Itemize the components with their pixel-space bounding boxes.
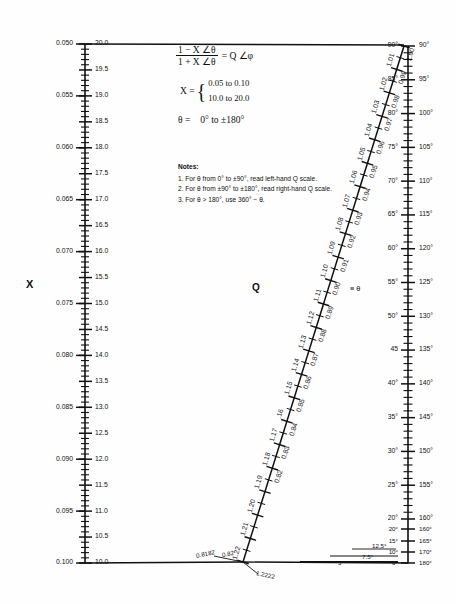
- x-scale-inner-label: 19.0: [95, 92, 108, 99]
- formula-block: 1 − X ∠θ 1 + X ∠θ = Q ∠φ X = { 0.05 to 0…: [176, 44, 366, 125]
- x-scale-outer-label: 0.055: [56, 92, 73, 99]
- theta-scale-left-label: 45: [390, 346, 398, 353]
- x-scale-inner-label: 19.5: [95, 66, 108, 73]
- theta-scale-right-label: 90°: [419, 42, 429, 49]
- x-scale-outer-label: 0.095: [56, 508, 73, 515]
- x-scale-outer-label: 0.090: [56, 456, 73, 463]
- theta-scale-right-label: 140°: [419, 380, 433, 387]
- theta-scale-right-label: 130°: [419, 313, 433, 320]
- theta-scale-right-label: 110°: [419, 178, 433, 185]
- x-scale-inner-label: 14.5: [95, 326, 108, 333]
- brace-glyph: {: [197, 83, 207, 100]
- theta-scale-left-label: 50°: [388, 313, 398, 320]
- x-scale-inner-label: 18.5: [95, 118, 108, 125]
- theta-scale-right-label: 125°: [419, 279, 433, 286]
- theta-scale-right-label: 145°: [419, 414, 433, 421]
- theta-scale-left-label: 20°: [389, 526, 398, 532]
- x-scale-inner-label: 15.5: [95, 274, 108, 281]
- formula-x-label: X =: [180, 86, 195, 96]
- theta-scale-left-label: 25°: [388, 482, 398, 489]
- formula-theta-label: θ =: [178, 115, 190, 125]
- theta-scale-right-label: 100°: [419, 110, 433, 117]
- x-scale-inner-label: 13.0: [95, 404, 108, 411]
- theta-scale-left-label: 35°: [388, 414, 398, 421]
- theta-scale-right-label: 170°: [419, 549, 432, 555]
- theta-scale-left-label: 10°: [389, 549, 398, 555]
- theta-extra-label: 7.5°: [362, 554, 373, 560]
- x-scale-inner-label: 10.5: [95, 533, 108, 540]
- x-scale-inner-label: 13.5: [95, 378, 108, 385]
- theta-scale-left-label: 30°: [388, 448, 398, 455]
- theta-scale-right-label: 160°: [419, 515, 433, 522]
- theta-scale-right-label: 155°: [419, 482, 433, 489]
- theta-scale-left-label: 70°: [388, 178, 398, 185]
- theta-extra-label: 5°: [338, 560, 344, 566]
- theta-scale-left-label: 60°: [388, 245, 398, 252]
- x-scale-outer-label: 0.070: [56, 248, 73, 255]
- x-scale-inner-label: 20.0: [95, 40, 108, 47]
- x-scale-outer-label: 0.100: [56, 559, 73, 566]
- x-scale-inner-label: 17.5: [95, 170, 108, 177]
- x-scale-inner-label: 17.0: [95, 196, 108, 203]
- theta-scale-left-label: 20°: [388, 515, 398, 522]
- note-item: 1. For θ from 0° to ±90°, read left-hand…: [178, 174, 393, 185]
- theta-axis-label: ≡ θ: [350, 285, 360, 292]
- theta-scale-right-label: 115°: [419, 211, 433, 218]
- x-scale-inner-label: 10.0: [95, 559, 108, 566]
- formula-x-range-bottom: 10.0 to 20.0: [208, 91, 249, 106]
- theta-scale-left-label: 15°: [389, 538, 398, 544]
- x-scale-outer-label: 0.080: [56, 352, 73, 359]
- theta-scale-right-label: 150°: [419, 448, 433, 455]
- theta-scale-right-label: 180°: [419, 560, 432, 566]
- nomogram-figure: X Q ≡ θ 1 − X ∠θ 1 + X ∠θ = Q ∠φ X = { 0…: [0, 0, 456, 604]
- formula-denominator: 1 + X ∠θ: [176, 56, 218, 67]
- x-axis-label: X: [26, 279, 33, 290]
- theta-scale-left-label: 65°: [388, 211, 398, 218]
- x-scale-inner-label: 14.0: [95, 352, 108, 359]
- theta-scale-right-label: 165°: [419, 538, 432, 544]
- x-scale-outer-label: 0.050: [56, 40, 73, 47]
- formula-fraction: 1 − X ∠θ 1 + X ∠θ: [176, 44, 218, 67]
- note-item: 2. For θ from ±90° to ±180°, read right-…: [178, 184, 393, 195]
- theta-scale-left-label: 0°: [392, 560, 398, 566]
- formula-x-range-top: 0.05 to 0.10: [208, 76, 249, 91]
- formula-equals: = Q ∠φ: [222, 50, 253, 61]
- x-scale-inner-label: 11.5: [95, 482, 108, 489]
- formula-theta-range: 0° to ±180°: [200, 115, 244, 125]
- theta-scale-right-label: 160°: [419, 526, 432, 532]
- q-axis-label: Q: [252, 283, 260, 293]
- notes-heading: Notes:: [178, 162, 393, 173]
- x-scale-inner-label: 18.0: [95, 144, 108, 151]
- formula-numerator: 1 − X ∠θ: [176, 44, 218, 56]
- x-scale-inner-label: 12.5: [95, 430, 108, 437]
- x-scale-inner-label: 11.0: [95, 508, 108, 515]
- theta-scale-right-label: 95°: [419, 76, 429, 83]
- theta-scale-right-label: 135°: [419, 346, 433, 353]
- theta-scale-left-label: 90°: [388, 42, 398, 49]
- x-scale-outer-label: 0.075: [56, 300, 73, 307]
- x-scale-inner-label: 15.0: [95, 300, 108, 307]
- x-scale-outer-label: 0.065: [56, 196, 73, 203]
- theta-scale-left-label: 55°: [388, 279, 398, 286]
- theta-scale-left-label: 75°: [388, 144, 398, 151]
- theta-scale-right-label: 120°: [419, 245, 433, 252]
- x-scale-outer-label: 0.060: [56, 144, 73, 151]
- x-scale-inner-label: 16.0: [95, 248, 108, 255]
- x-scale-inner-label: 16.5: [95, 222, 108, 229]
- theta-extra-label: 12.5°: [372, 543, 387, 549]
- theta-scale-left-label: 40°: [388, 380, 398, 387]
- x-scale-inner-label: 12.0: [95, 456, 108, 463]
- x-scale-outer-label: 0.085: [56, 404, 73, 411]
- theta-scale-right-label: 105°: [419, 144, 433, 151]
